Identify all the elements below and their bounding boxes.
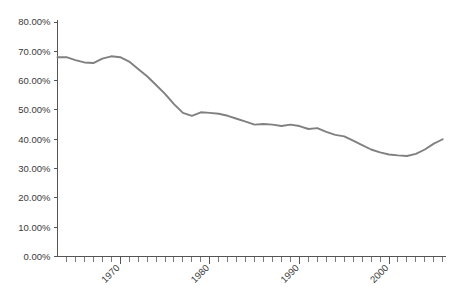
y-axis-tick-labels: 0.00%10.00%20.00%30.00%40.00%50.00%60.00… <box>18 16 51 262</box>
x-axis-tick-label: 1990 <box>278 262 301 285</box>
y-axis-tick-label: 60.00% <box>18 75 51 86</box>
line-chart: 0.00%10.00%20.00%30.00%40.00%50.00%60.00… <box>0 0 457 290</box>
y-axis-tick-label: 50.00% <box>18 104 51 115</box>
data-series-line <box>58 56 443 156</box>
x-axis-tick-labels: 1970198019902000 <box>99 262 391 285</box>
y-axis-tick-label: 80.00% <box>18 16 51 27</box>
y-axis-tick-label: 20.00% <box>18 192 51 203</box>
x-axis-tick-marks <box>66 257 442 264</box>
y-axis-tick-label: 0.00% <box>24 251 51 262</box>
y-axis-tick-label: 40.00% <box>18 134 51 145</box>
y-axis-tick-label: 70.00% <box>18 46 51 57</box>
y-axis-tick-label: 10.00% <box>18 222 51 233</box>
x-axis-tick-label: 1980 <box>189 262 212 285</box>
chart-container: 0.00%10.00%20.00%30.00%40.00%50.00%60.00… <box>0 0 457 290</box>
x-axis-tick-label: 2000 <box>368 262 391 285</box>
y-axis-tick-label: 30.00% <box>18 163 51 174</box>
x-axis-tick-label: 1970 <box>99 262 122 285</box>
